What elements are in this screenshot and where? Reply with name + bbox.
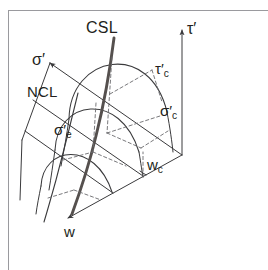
section-1-base-diagonal: [107, 133, 141, 148]
sigma-c-subscript: c: [172, 110, 177, 121]
ncl-label: NCL: [27, 84, 58, 99]
sigma-prime-axis-label: σ′: [32, 52, 45, 68]
tau-c-label: τ′c: [155, 61, 169, 79]
section-3-left-leg: [36, 186, 41, 214]
wc-subscript: c: [158, 164, 163, 175]
base-plane-mid-edge: [25, 131, 113, 193]
ncl-curve: [44, 93, 78, 222]
sigma-e-label: σ′e: [54, 122, 72, 140]
section-2-base-diagonal: [93, 152, 126, 166]
w-axis-label: w: [64, 224, 75, 239]
tau-prime-axis-label: τ′: [187, 21, 196, 37]
csl-curve: [72, 38, 114, 214]
sigma-c-leader-line: [107, 116, 160, 133]
section-2-left-leg: [49, 150, 55, 190]
csl-label: CSL: [86, 20, 118, 36]
tau-c-symbol: τ′: [155, 60, 164, 77]
tau-c-leader-line: [110, 70, 152, 94]
sigma-c-label: σ′c: [160, 103, 177, 121]
wc-symbol: w: [147, 156, 158, 173]
sigma-c-symbol: σ′: [160, 102, 172, 119]
section-1-base-diagonal-2: [141, 131, 168, 148]
sigma-e-symbol: σ′: [54, 121, 66, 138]
sigma-e-subscript: e: [66, 129, 72, 140]
base-plane-left-edge-lower: [20, 140, 22, 200]
base-plane-left-edge: [22, 63, 50, 140]
tau-c-subscript: c: [164, 68, 169, 79]
wc-label: wc: [147, 157, 163, 175]
w-axis-line: [68, 155, 182, 218]
